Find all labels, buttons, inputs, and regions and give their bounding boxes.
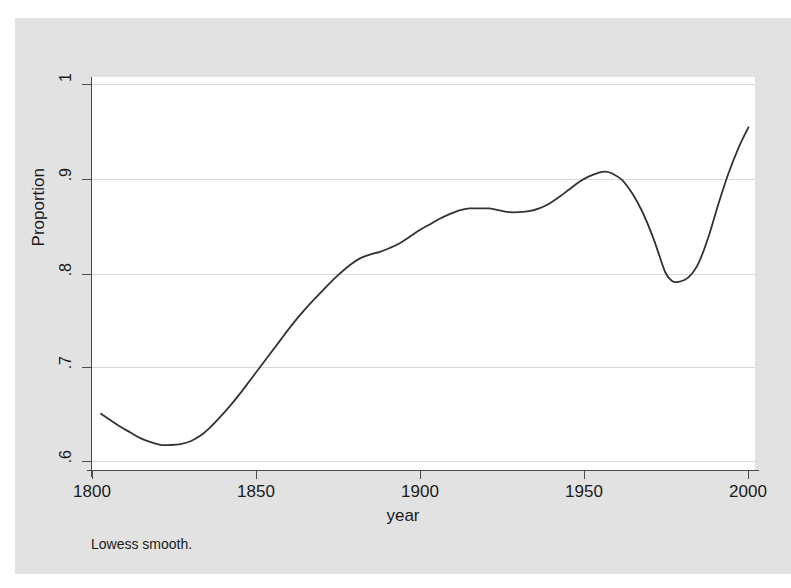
x-tick-1950 [584,470,585,479]
x-tick-1900 [420,470,421,479]
gridline-0.9 [91,179,755,180]
x-tick-1800 [92,470,93,479]
y-tick-label-0.8: .8 [57,263,75,276]
y-tick-1.0 [82,84,91,85]
gridline-0.7 [91,367,755,368]
y-tick-0.7 [82,367,91,368]
y-tick-label-0.7: .7 [57,356,75,369]
y-tick-0.6 [82,461,91,462]
x-tick-label-1800: 1800 [52,482,132,502]
y-tick-label-0.9: .9 [57,168,75,181]
gridline-0.6 [91,461,755,462]
x-tick-2000 [748,470,749,479]
x-tick-label-2000: 2000 [708,482,788,502]
x-tick-label-1900: 1900 [380,482,460,502]
y-tick-label-1.0: 1 [57,73,75,82]
chart-figure: 1 .9 .8 .7 .6 1800 1850 1900 1950 2000 P… [15,18,791,574]
y-tick-0.9 [82,179,91,180]
x-tick-1850 [256,470,257,479]
x-axis-title: year [15,506,791,526]
y-axis-line [91,77,92,477]
x-tick-label-1950: 1950 [544,482,624,502]
y-tick-0.8 [82,274,91,275]
y-tick-label-0.6: .6 [57,450,75,463]
x-tick-label-1850: 1850 [216,482,296,502]
y-axis-title: Proportion [29,168,49,246]
gridline-0.8 [91,274,755,275]
x-axis-line [87,470,759,471]
gridline-1.0 [91,84,755,85]
chart-note: Lowess smooth. [91,536,192,552]
